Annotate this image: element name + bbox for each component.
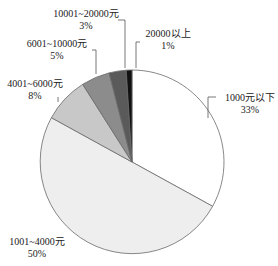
label-1001-4000: 1001~4000元 50% — [6, 236, 68, 260]
label-pct: 5% — [24, 50, 90, 62]
label-name: 4001~6000元 — [4, 78, 66, 90]
label-4001-6000: 4001~6000元 8% — [4, 78, 66, 102]
label-name: 6001~10000元 — [24, 38, 90, 50]
label-name: 1001~4000元 — [6, 236, 68, 248]
label-pct: 50% — [6, 248, 68, 260]
label-pct: 33% — [222, 104, 278, 116]
label-10001-20000: 10001~20000元 3% — [50, 8, 122, 32]
label-pct: 1% — [140, 40, 196, 52]
label-pct: 3% — [50, 20, 122, 32]
label-below-1000: 1000元以下 33% — [222, 92, 278, 116]
label-name: 20000以上 — [140, 28, 196, 40]
label-above-20000: 20000以上 1% — [140, 28, 196, 52]
label-pct: 8% — [4, 90, 66, 102]
label-name: 10001~20000元 — [50, 8, 122, 20]
leader-line — [92, 50, 96, 74]
label-name: 1000元以下 — [222, 92, 278, 104]
label-6001-10000: 6001~10000元 5% — [24, 38, 90, 62]
